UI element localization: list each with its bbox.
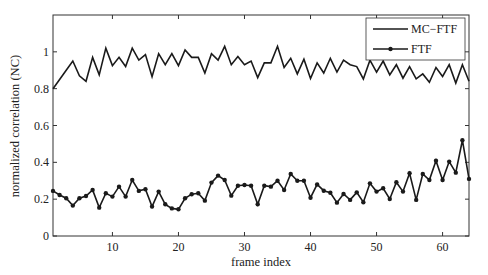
data-point-ftf [262, 184, 266, 188]
data-point-ftf [414, 198, 418, 202]
data-point-ftf [77, 196, 81, 200]
data-point-ftf [209, 180, 213, 184]
x-axis-label: frame index [231, 255, 292, 269]
data-point-ftf [302, 179, 306, 183]
data-point-ftf [388, 197, 392, 201]
y-axis-label: normalized correlation (NC) [8, 55, 22, 197]
data-point-ftf [216, 173, 220, 177]
data-point-ftf [289, 172, 293, 176]
data-point-ftf [454, 170, 458, 174]
data-point-ftf [170, 206, 174, 210]
data-point-ftf [467, 177, 471, 181]
data-point-ftf [229, 193, 233, 197]
data-point-ftf [84, 194, 88, 198]
data-point-ftf [143, 187, 147, 191]
data-point-ftf [110, 194, 114, 198]
y-tick-label: 0.4 [34, 155, 49, 169]
data-point-ftf [315, 182, 319, 186]
data-point-ftf [196, 191, 200, 195]
data-point-ftf [97, 205, 101, 209]
data-point-ftf [355, 190, 359, 194]
legend-marker-ftf-icon [388, 47, 392, 51]
data-point-ftf [156, 189, 160, 193]
data-point-ftf [71, 203, 75, 207]
data-point-ftf [137, 189, 141, 193]
data-point-ftf [51, 189, 55, 193]
data-point-ftf [104, 191, 108, 195]
data-point-ftf [341, 192, 345, 196]
data-point-ftf [322, 188, 326, 192]
data-point-ftf [361, 200, 365, 204]
x-tick-label: 20 [172, 240, 184, 254]
data-point-ftf [348, 198, 352, 202]
line-chart: 00.20.40.60.81 102030405060 frame index … [0, 0, 488, 275]
data-point-ftf [189, 192, 193, 196]
data-point-ftf [203, 198, 207, 202]
y-tick-label: 0 [43, 229, 49, 243]
data-point-ftf [427, 178, 431, 182]
data-point-ftf [117, 184, 121, 188]
y-tick-label: 0.2 [34, 192, 49, 206]
data-point-ftf [176, 207, 180, 211]
data-point-ftf [236, 184, 240, 188]
legend: MC−FTF FTF [366, 18, 465, 60]
data-point-ftf [368, 181, 372, 185]
y-tick-label: 0.6 [34, 119, 49, 133]
data-point-ftf [374, 189, 378, 193]
data-point-ftf [64, 196, 68, 200]
data-point-ftf [282, 188, 286, 192]
data-point-ftf [242, 183, 246, 187]
data-point-ftf [407, 171, 411, 175]
data-point-ftf [90, 188, 94, 192]
data-point-ftf [57, 193, 61, 197]
x-tick-label: 30 [238, 240, 250, 254]
data-point-ftf [381, 186, 385, 190]
data-point-ftf [308, 195, 312, 199]
data-point-ftf [255, 202, 259, 206]
legend-label-mc-ftf: MC−FTF [411, 22, 457, 36]
data-point-ftf [447, 159, 451, 163]
data-point-ftf [249, 184, 253, 188]
data-point-ftf [460, 138, 464, 142]
data-point-ftf [275, 179, 279, 183]
data-point-ftf [150, 204, 154, 208]
data-point-ftf [440, 178, 444, 182]
data-point-ftf [401, 189, 405, 193]
data-point-ftf [222, 178, 226, 182]
data-point-ftf [394, 180, 398, 184]
y-tick-label: 1 [43, 45, 49, 59]
data-point-ftf [183, 196, 187, 200]
data-point-ftf [295, 179, 299, 183]
data-point-ftf [421, 172, 425, 176]
legend-label-ftf: FTF [411, 42, 432, 56]
x-tick-label: 60 [437, 240, 449, 254]
x-tick-label: 50 [371, 240, 383, 254]
data-point-ftf [130, 178, 134, 182]
x-tick-label: 10 [106, 240, 118, 254]
data-point-ftf [335, 200, 339, 204]
y-tick-label: 0.8 [34, 82, 49, 96]
data-point-ftf [269, 184, 273, 188]
data-point-ftf [328, 191, 332, 195]
data-point-ftf [163, 202, 167, 206]
data-point-ftf [123, 194, 127, 198]
x-tick-label: 40 [305, 240, 317, 254]
data-point-ftf [434, 158, 438, 162]
